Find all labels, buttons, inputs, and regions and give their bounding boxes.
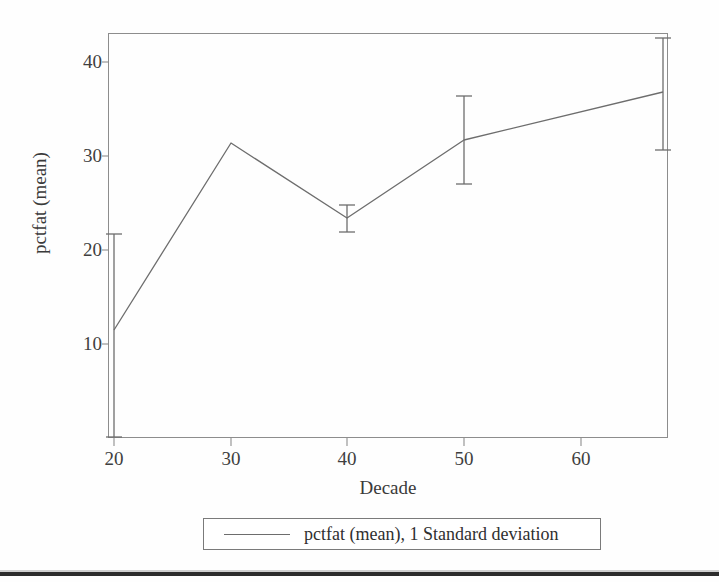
page-bottom-rule xyxy=(0,572,719,576)
figure-canvas: 40 30 20 10 20 30 40 50 60 Decade pctfat… xyxy=(0,0,719,582)
x-tick-label-40: 40 xyxy=(317,448,377,470)
y-axis-tick-labels: 40 30 20 10 xyxy=(62,0,102,582)
x-tick-label-20: 20 xyxy=(84,448,144,470)
y-axis-title: pctfat (mean) xyxy=(29,103,51,303)
error-bars xyxy=(106,38,671,437)
legend-entry-label: pctfat (mean), 1 Standard deviation xyxy=(304,525,558,543)
x-axis-tick-labels: 20 30 40 50 60 xyxy=(0,448,719,476)
error-bar-decade-50 xyxy=(456,96,472,184)
error-bar-decade-40 xyxy=(339,205,355,232)
y-tick-label-20: 20 xyxy=(68,240,102,259)
x-axis-title: Decade xyxy=(108,477,668,499)
x-tick-marks xyxy=(114,438,581,446)
error-bar-decade-20 xyxy=(106,234,122,437)
series-line-pctfat-mean xyxy=(114,92,663,330)
x-tick-label-50: 50 xyxy=(434,448,494,470)
y-tick-marks xyxy=(102,62,109,344)
x-tick-label-60: 60 xyxy=(551,448,611,470)
y-tick-label-40: 40 xyxy=(68,52,102,71)
x-tick-label-30: 30 xyxy=(201,448,261,470)
chart-legend: pctfat (mean), 1 Standard deviation xyxy=(203,518,601,550)
y-tick-label-10: 10 xyxy=(68,334,102,353)
legend-line-swatch xyxy=(224,534,290,535)
y-tick-label-30: 30 xyxy=(68,146,102,165)
